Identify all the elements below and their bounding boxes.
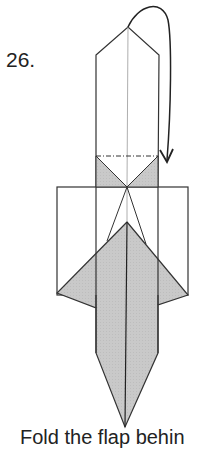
origami-diagram	[0, 0, 213, 452]
top-flap	[96, 27, 159, 187]
step-instruction: Fold the flap behin	[0, 426, 213, 449]
